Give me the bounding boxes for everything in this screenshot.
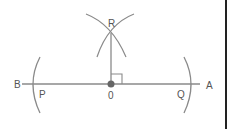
label-r: R [108, 18, 115, 29]
arc-r-right [97, 14, 134, 57]
arc-p [33, 57, 40, 113]
label-b: B [14, 79, 21, 90]
label-a: A [206, 80, 213, 91]
label-p: P [39, 89, 46, 100]
point-o [108, 81, 115, 88]
construction-diagram: B A P Q 0 R [0, 0, 231, 129]
arc-q [184, 57, 191, 113]
label-o: 0 [108, 90, 114, 101]
label-q: Q [177, 89, 185, 100]
arc-r-left [86, 14, 126, 57]
